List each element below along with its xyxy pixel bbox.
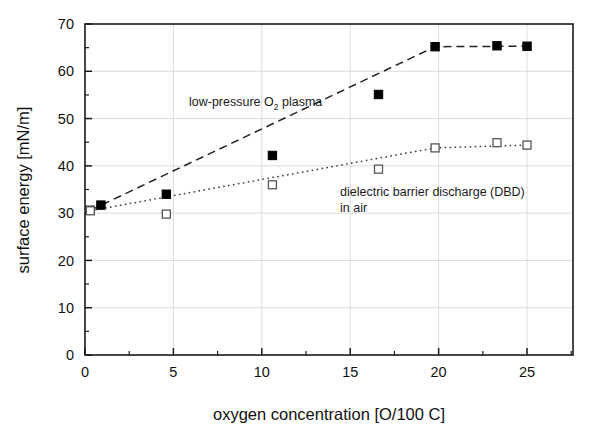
data-point-dbd: [493, 139, 501, 147]
data-point-plasma: [431, 42, 439, 50]
x-tick-label: 10: [254, 364, 270, 380]
x-tick-label: 15: [342, 364, 358, 380]
y-tick-label: 60: [58, 63, 74, 79]
y-tick-label: 10: [58, 300, 74, 316]
y-tick-label: 40: [58, 158, 74, 174]
x-tick-label: 25: [519, 364, 535, 380]
data-point-dbd: [375, 165, 383, 173]
annotation-plasma-main-text: low-pressure O: [189, 95, 274, 109]
x-tick-label: 20: [431, 364, 447, 380]
y-tick-label: 0: [66, 347, 74, 363]
data-point-plasma: [523, 42, 531, 50]
y-tick-label: 70: [58, 16, 74, 32]
x-axis-title: oxygen concentration [O/100 C]: [213, 405, 445, 423]
data-point-dbd: [431, 144, 439, 152]
y-tick-label: 30: [58, 205, 74, 221]
y-axis-tick-labels: 010203040506070: [58, 16, 74, 363]
data-point-plasma: [162, 190, 170, 198]
data-point-plasma: [374, 90, 382, 98]
x-tick-label: 5: [169, 364, 177, 380]
chart-figure: 010203040506070 0510152025 low-pressure …: [0, 0, 598, 436]
annotation-plasma-tail-text: plasma: [278, 95, 322, 109]
data-point-dbd: [162, 210, 170, 218]
annotation-dbd-line1: dielectric barrier discharge (DBD): [340, 185, 525, 199]
x-axis-tick-labels: 0510152025: [81, 364, 535, 380]
surface-energy-scatter-chart: 010203040506070 0510152025 low-pressure …: [0, 0, 598, 436]
y-tick-label: 20: [58, 253, 74, 269]
y-axis-title: surface energy [mN/m]: [14, 107, 32, 274]
data-point-dbd: [268, 181, 276, 189]
x-tick-label: 0: [81, 364, 89, 380]
data-point-plasma: [97, 201, 105, 209]
data-point-dbd: [523, 141, 531, 149]
data-point-dbd: [86, 207, 94, 215]
annotation-dbd-line2: in air: [340, 201, 367, 215]
data-point-plasma: [493, 42, 501, 50]
data-point-plasma: [268, 151, 276, 159]
y-tick-label: 50: [58, 111, 74, 127]
